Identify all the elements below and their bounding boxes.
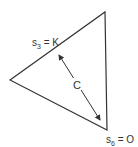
triangle-diagram: C s3 = K s6 = O	[0, 0, 138, 147]
label-c: C	[73, 79, 81, 91]
label-s6-o: s6 = O	[106, 134, 134, 147]
triangle	[10, 12, 107, 130]
